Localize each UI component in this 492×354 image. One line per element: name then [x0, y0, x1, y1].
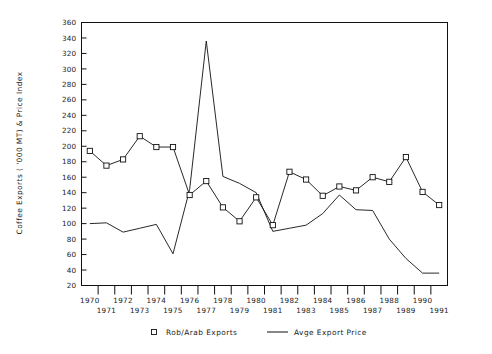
x-tick-label: 1984 — [313, 296, 333, 305]
data-point-marker — [437, 202, 442, 207]
x-tick-label: 1974 — [147, 296, 167, 305]
legend-label-rob-arab-exports: Rob/Arab Exports — [166, 328, 237, 337]
legend-swatch-open-square-marker — [152, 330, 157, 335]
data-point-marker — [137, 134, 142, 139]
y-tick-label: 200 — [62, 142, 77, 151]
data-point-marker — [254, 195, 259, 200]
y-axis-title: Coffee Exports ( '000 MT) & Price Index — [15, 71, 24, 234]
y-tick-label: 300 — [62, 65, 77, 74]
x-tick-label: 1970 — [80, 296, 100, 305]
data-point-marker — [370, 175, 375, 180]
data-point-marker — [87, 148, 92, 153]
data-point-marker — [320, 193, 325, 198]
data-point-marker — [303, 177, 308, 182]
x-tick-label: 1986 — [346, 296, 366, 305]
x-tick-label: 1979 — [230, 306, 250, 315]
data-point-marker — [353, 188, 358, 193]
legend-label-avge-export-price: Avge Export Price — [294, 328, 367, 337]
data-point-marker — [120, 157, 125, 162]
x-tick-label: 1983 — [296, 306, 316, 315]
data-point-marker — [154, 144, 159, 149]
y-tick-label: 260 — [62, 95, 77, 104]
y-tick-label: 220 — [62, 126, 77, 135]
data-point-marker — [420, 189, 425, 194]
y-tick-label: 320 — [62, 49, 77, 58]
y-tick-label: 160 — [62, 173, 77, 182]
data-point-marker — [204, 178, 209, 183]
data-point-marker — [170, 144, 175, 149]
x-tick-label: 1987 — [363, 306, 383, 315]
x-tick-label: 1978 — [213, 296, 233, 305]
data-point-marker — [270, 223, 275, 228]
y-tick-label: 340 — [62, 34, 77, 43]
data-point-marker — [237, 219, 242, 224]
x-tick-label: 1975 — [163, 306, 183, 315]
x-tick-label: 1988 — [380, 296, 400, 305]
x-tick-label: 1977 — [197, 306, 217, 315]
data-point-marker — [187, 192, 192, 197]
y-tick-label: 240 — [62, 111, 77, 120]
x-tick-label: 1972 — [113, 296, 133, 305]
data-point-marker — [403, 154, 408, 159]
chart-canvas: Coffee Exports ( '000 MT) & Price Index … — [0, 0, 492, 354]
y-tick-label: 60 — [67, 250, 77, 259]
x-tick-label: 1989 — [396, 306, 416, 315]
x-tick-label: 1976 — [180, 296, 200, 305]
x-tick-label: 1990 — [413, 296, 433, 305]
y-tick-label: 120 — [62, 204, 77, 213]
coffee-exports-chart: Coffee Exports ( '000 MT) & Price Index … — [0, 0, 492, 354]
data-point-marker — [337, 184, 342, 189]
x-tick-label: 1985 — [330, 306, 350, 315]
data-point-marker — [220, 205, 225, 210]
data-point-marker — [104, 163, 109, 168]
y-tick-label: 20 — [67, 281, 77, 290]
y-tick-label: 40 — [67, 266, 77, 275]
y-tick-label: 360 — [62, 18, 77, 27]
y-tick-label: 80 — [67, 235, 77, 244]
data-point-marker — [287, 169, 292, 174]
y-tick-label: 180 — [62, 157, 77, 166]
x-tick-label: 1971 — [97, 306, 117, 315]
x-tick-label: 1973 — [130, 306, 150, 315]
y-tick-label: 100 — [62, 219, 77, 228]
y-tick-label: 140 — [62, 188, 77, 197]
x-tick-label: 1991 — [429, 306, 449, 315]
y-tick-label: 280 — [62, 80, 77, 89]
x-tick-label: 1980 — [246, 296, 266, 305]
data-point-marker — [387, 179, 392, 184]
x-tick-label: 1981 — [263, 306, 283, 315]
x-tick-label: 1982 — [280, 296, 300, 305]
